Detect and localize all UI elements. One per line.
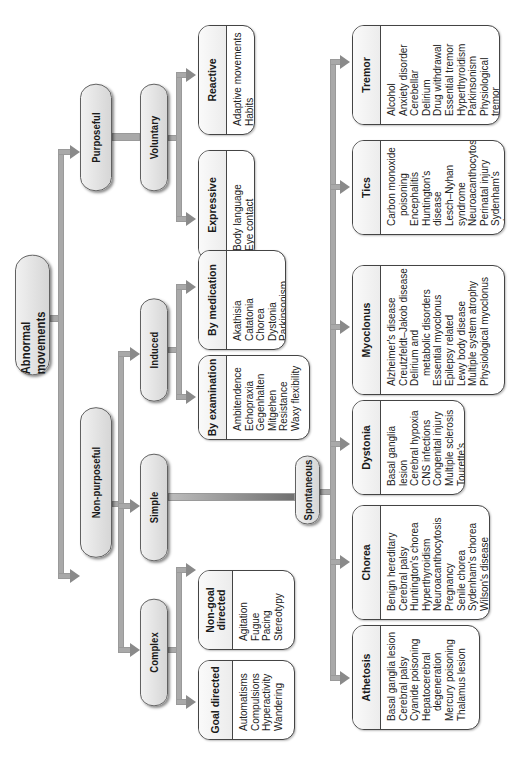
- list-item: Physiological myoclonus: [479, 266, 491, 386]
- list-item: Wandering: [273, 661, 285, 731]
- list-item: Alcohol: [386, 26, 398, 116]
- box-title: Non-goal directed: [199, 571, 233, 649]
- list-item: Mitgehen: [267, 356, 279, 431]
- list-item: Congenital injury: [432, 401, 444, 486]
- connector: [168, 493, 295, 501]
- list-item: Drug withdrawal: [432, 26, 444, 116]
- list-item: Lesch–Nyhan syndrome: [444, 141, 467, 226]
- list-item: Parkinsonism: [467, 26, 479, 116]
- connector: [176, 72, 182, 222]
- node-complex: Complex: [140, 599, 168, 707]
- item-list: Automatisms Compulsions Hyperactivity Wa…: [233, 661, 288, 739]
- arrow-icon: [340, 180, 350, 194]
- list-item: degeneration: [432, 626, 444, 721]
- list-item: Catatonia: [244, 251, 256, 341]
- list-item: Essential tremor: [444, 26, 456, 116]
- box-expressive: Expressive Body language Eye contact Fac…: [198, 150, 255, 260]
- arrow-icon: [130, 499, 140, 513]
- arrow-icon: [340, 437, 350, 451]
- list-item: Lewy body disease: [456, 266, 468, 386]
- list-item: Neuroacanthocytosis: [432, 506, 444, 611]
- item-list: Basal ganglia lesion Cerebral palsy Cyan…: [381, 626, 471, 729]
- list-item: Pregnancy: [444, 506, 456, 611]
- box-goal-directed: Goal directed Automatisms Compulsions Hy…: [198, 660, 295, 740]
- arrow-icon: [130, 347, 140, 361]
- list-item: poisoning: [398, 141, 410, 226]
- list-item: Agitation: [238, 571, 250, 641]
- list-item: Carbon monoxide: [386, 141, 398, 226]
- box-athetosis: Athetosis Basal ganglia lesion Cerebral …: [352, 625, 480, 730]
- arrow-icon: [186, 280, 196, 294]
- arrow-icon: [70, 569, 80, 583]
- list-item: Fugue: [250, 571, 262, 641]
- connector: [176, 284, 182, 400]
- item-list: Alzheimer's disease Creutzfeldt–Jakob di…: [381, 266, 494, 394]
- list-item: Hyperthyroidism: [456, 26, 468, 116]
- list-item: Sydenham's chorea: [490, 141, 505, 226]
- abnormal-movements-diagram: Abnormal movements Purposeful Non-purpos…: [0, 0, 512, 757]
- box-title: Athetosis: [353, 626, 381, 729]
- box-title: Reactive: [199, 26, 227, 134]
- item-list: Akathisia Catatonia Chorea Dystonia Park…: [227, 251, 286, 349]
- list-item: Essential myoclonus: [432, 266, 444, 386]
- box-title: Tics: [353, 141, 381, 234]
- list-item: Pacing: [261, 571, 273, 641]
- box-tremor: Tremor Alcohol Anxiety disorder Cerebell…: [352, 25, 500, 125]
- list-item: Perinatal injury: [479, 141, 491, 226]
- node-spontaneous: Spontaneous: [295, 456, 320, 525]
- arrow-icon: [186, 695, 196, 709]
- box-title: Chorea: [353, 506, 381, 619]
- arrow-icon: [340, 555, 350, 569]
- connector: [118, 351, 124, 653]
- list-item: Compulsions: [250, 661, 262, 731]
- node-non-purposeful: Non-purposeful: [80, 407, 112, 558]
- item-list: Body language Eye contact Facial express…: [227, 151, 255, 259]
- list-item: Benign hereditary: [386, 506, 398, 611]
- list-item: Basal ganglia lesion: [386, 401, 409, 486]
- connector: [58, 149, 64, 579]
- arrow-icon: [186, 390, 196, 404]
- list-item: Habits: [244, 26, 255, 126]
- item-list: Basal ganglia lesion Cerebral hypoxia CN…: [381, 401, 465, 494]
- list-item: Akathisia: [232, 251, 244, 341]
- list-item: Wilson's disease: [479, 506, 490, 611]
- list-item: Body language: [232, 151, 244, 251]
- arrow-icon: [340, 55, 350, 69]
- item-list: Carbon monoxide poisoning Encephalitis H…: [381, 141, 505, 234]
- node-induced: Induced: [140, 298, 168, 401]
- list-item: Hyperthyroidism: [421, 506, 433, 611]
- box-by-medication: By medication Akathisia Catatonia Chorea…: [198, 250, 286, 350]
- connector: [176, 567, 182, 705]
- list-item: Anxiety disorder: [398, 26, 410, 116]
- list-item: Multiple sclerosis: [444, 401, 456, 486]
- list-item: CNS infections: [421, 401, 433, 486]
- item-list: Adaptive movements Habits Mannerisms: [227, 26, 255, 134]
- list-item: Thalamus lesion: [456, 626, 468, 721]
- list-item: Creutzfeldt–Jakob disease: [398, 266, 410, 386]
- node-voluntary: Voluntary: [140, 84, 168, 192]
- list-item: Resistance: [278, 356, 290, 431]
- list-item: Epilepsy related: [444, 266, 456, 386]
- box-myoclonus: Myoclonus Alzheimer's disease Creutzfeld…: [352, 265, 505, 395]
- box-reactive: Reactive Adaptive movements Habits Manne…: [198, 25, 255, 135]
- arrow-icon: [340, 671, 350, 685]
- list-item: Physiological tremor: [479, 26, 500, 116]
- list-item: Automatisms: [238, 661, 250, 731]
- box-dystonia: Dystonia Basal ganglia lesion Cerebral h…: [352, 400, 465, 495]
- root-node-abnormal-movements: Abnormal movements: [15, 255, 50, 375]
- list-item: Cerebral palsy: [398, 626, 410, 721]
- box-title: Tremor: [353, 26, 381, 124]
- node-simple: Simple: [140, 454, 168, 562]
- item-list: Alcohol Anxiety disorder Cerebellar Deli…: [381, 26, 500, 124]
- box-title: By medication: [199, 251, 227, 349]
- list-item: Encephalitis: [409, 141, 421, 226]
- node-purposeful: Purposeful: [80, 84, 112, 192]
- box-by-examination: By examination Ambitendence Echopraxia G…: [198, 355, 310, 440]
- item-list: Ambitendence Echopraxia Gegenhalten Mitg…: [227, 356, 306, 439]
- box-title: Goal directed: [199, 661, 233, 739]
- list-item: Senile chorea: [456, 506, 468, 611]
- box-title: Myoclonus: [353, 266, 381, 394]
- arrow-icon: [186, 212, 196, 226]
- arrow-icon: [186, 68, 196, 82]
- list-item: Delirium: [421, 26, 433, 116]
